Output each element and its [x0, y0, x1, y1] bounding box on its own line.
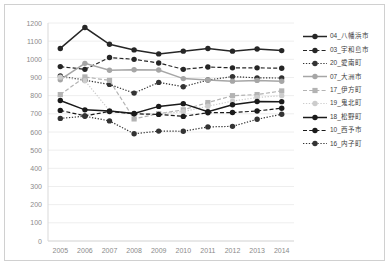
- data-point: [205, 104, 210, 109]
- legend-marker-icon: [302, 71, 328, 82]
- data-point: [58, 98, 63, 103]
- y-axis-tick-label: 900: [30, 74, 42, 81]
- x-axis-tick-label: 2005: [53, 247, 69, 254]
- y-axis-tick-label: 300: [30, 183, 42, 190]
- data-point: [230, 93, 235, 98]
- series-3: [58, 61, 285, 84]
- legend-marker-icon: [302, 58, 328, 69]
- legend-marker-icon: [302, 138, 328, 149]
- legend-marker-icon: [302, 85, 328, 96]
- legend-item-3[interactable]: 07_大洲市: [302, 70, 386, 83]
- legend-item-label: 04_八幡浜市: [330, 33, 369, 40]
- data-point: [107, 109, 112, 114]
- y-axis-tick-label: 1100: [27, 38, 42, 45]
- data-point: [230, 110, 235, 115]
- data-point: [181, 109, 186, 114]
- data-point: [230, 124, 235, 129]
- legend-item-2[interactable]: 20_愛南町: [302, 57, 386, 70]
- data-point: [156, 128, 161, 133]
- x-axis-tick-label: 2009: [151, 247, 167, 254]
- x-axis-tick-label: 2014: [274, 247, 290, 254]
- x-axis-tick-label: 2011: [200, 247, 215, 254]
- y-axis-tick-label: 100: [30, 219, 42, 226]
- data-point: [181, 84, 186, 89]
- data-point: [156, 67, 161, 72]
- data-point: [205, 110, 210, 115]
- series-2: [58, 73, 285, 95]
- legend-item-7[interactable]: 10_西予市: [302, 124, 386, 137]
- data-point: [107, 68, 112, 73]
- legend-item-5[interactable]: 19_鬼北町: [302, 97, 386, 110]
- data-point: [279, 66, 284, 71]
- data-point: [82, 61, 87, 66]
- chart-legend: 04_八幡浜市03_宇和島市20_愛南町07_大洲市17_伊方町19_鬼北町18…: [302, 30, 386, 152]
- data-point: [181, 101, 186, 106]
- data-point: [254, 117, 259, 122]
- y-axis-tick-label: 200: [30, 201, 42, 208]
- data-point: [131, 47, 136, 52]
- data-point: [205, 77, 210, 82]
- data-point: [82, 67, 87, 72]
- data-point: [254, 65, 259, 70]
- x-axis-tick-label: 2007: [102, 247, 118, 254]
- legend-item-label: 07_大洲市: [330, 74, 362, 81]
- y-axis-tick-label: 500: [30, 147, 42, 154]
- y-axis-tick-label: 400: [30, 165, 42, 172]
- data-point: [279, 93, 284, 98]
- x-axis-tick-label: 2006: [77, 247, 93, 254]
- legend-item-1[interactable]: 03_宇和島市: [302, 43, 386, 56]
- legend-marker-icon: [302, 112, 328, 123]
- legend-item-4[interactable]: 17_伊方町: [302, 84, 386, 97]
- data-point: [181, 67, 186, 72]
- y-axis-tick-label: 1200: [26, 20, 42, 27]
- data-point: [279, 106, 284, 111]
- data-point: [58, 46, 63, 51]
- data-point: [230, 78, 235, 83]
- data-point: [82, 107, 87, 112]
- legend-item-8[interactable]: 16_内子町: [302, 137, 386, 150]
- legend-item-label: 18_松野町: [330, 114, 362, 121]
- data-point: [254, 46, 259, 51]
- data-point: [107, 55, 112, 60]
- legend-marker-icon: [302, 45, 328, 56]
- data-point: [205, 124, 210, 129]
- data-point: [131, 90, 136, 95]
- legend-item-label: 10_西予市: [330, 127, 362, 134]
- x-axis-tick-label: 2012: [225, 247, 241, 254]
- data-point: [107, 78, 112, 83]
- legend-item-6[interactable]: 18_松野町: [302, 110, 386, 123]
- data-point: [58, 74, 63, 79]
- legend-item-label: 17_伊方町: [330, 87, 362, 94]
- data-point: [156, 80, 161, 85]
- data-point: [131, 67, 136, 72]
- data-point: [131, 131, 136, 136]
- y-axis-tick-label: 700: [30, 110, 42, 117]
- data-point: [58, 108, 63, 113]
- data-point: [205, 46, 210, 51]
- data-point: [230, 48, 235, 53]
- data-point: [279, 79, 284, 84]
- data-point: [132, 116, 137, 121]
- series-line: [60, 114, 281, 134]
- data-point: [230, 65, 235, 70]
- data-point: [107, 118, 112, 123]
- data-point: [181, 76, 186, 81]
- data-point: [58, 64, 63, 69]
- series-1: [58, 55, 285, 72]
- legend-item-label: 03_宇和島市: [330, 47, 369, 54]
- data-point: [181, 114, 186, 119]
- x-axis-tick-label: 2013: [249, 247, 265, 254]
- data-point: [58, 116, 63, 121]
- legend-item-label: 20_愛南町: [330, 60, 362, 67]
- data-point: [58, 92, 63, 97]
- legend-item-0[interactable]: 04_八幡浜市: [302, 30, 386, 43]
- legend-marker-icon: [302, 98, 328, 109]
- data-point: [279, 99, 284, 104]
- data-point: [279, 88, 284, 93]
- chart-frame: 1200110010009008007006005004003002001000…: [4, 4, 385, 261]
- data-point: [82, 78, 87, 83]
- y-axis-tick-label: 600: [30, 129, 42, 136]
- data-point: [82, 25, 87, 30]
- data-point: [156, 112, 161, 117]
- x-axis-tick-label: 2008: [126, 247, 142, 254]
